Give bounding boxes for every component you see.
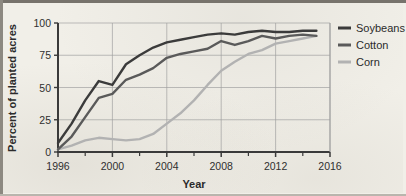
x-tick-label: 2012 (264, 160, 288, 172)
legend-label-cotton: Cotton (356, 39, 388, 51)
chart-svg: 0255075100 199620002004200820122016 Perc… (0, 0, 406, 196)
y-axis-title: Percent of planted acres (6, 24, 18, 152)
legend-label-corn: Corn (356, 56, 380, 68)
y-tick-label: 25 (39, 114, 51, 126)
y-tick-label: 100 (33, 17, 51, 29)
series-line-soybeans (58, 31, 316, 143)
line-chart: 0255075100 199620002004200820122016 Perc… (0, 0, 406, 196)
y-tick-label: 50 (39, 82, 51, 94)
x-tick-label: 2008 (210, 160, 234, 172)
y-axis-ticks: 0255075100 (33, 17, 58, 158)
chart-figure: 0255075100 199620002004200820122016 Perc… (0, 0, 406, 196)
legend-label-soybeans: Soybeans (356, 22, 405, 34)
series-line-cotton (58, 35, 316, 150)
data-series-layer (58, 31, 316, 150)
chart-legend: SoybeansCottonCorn (338, 22, 405, 68)
x-axis-title: Year (182, 178, 206, 190)
x-tick-label: 2016 (318, 160, 342, 172)
y-tick-label: 75 (39, 49, 51, 61)
x-tick-label: 2000 (101, 160, 125, 172)
x-axis-ticks: 199620002004200820122016 (46, 152, 342, 172)
x-tick-label: 2004 (155, 160, 179, 172)
y-tick-label: 0 (45, 146, 51, 158)
x-tick-label: 1996 (46, 160, 70, 172)
